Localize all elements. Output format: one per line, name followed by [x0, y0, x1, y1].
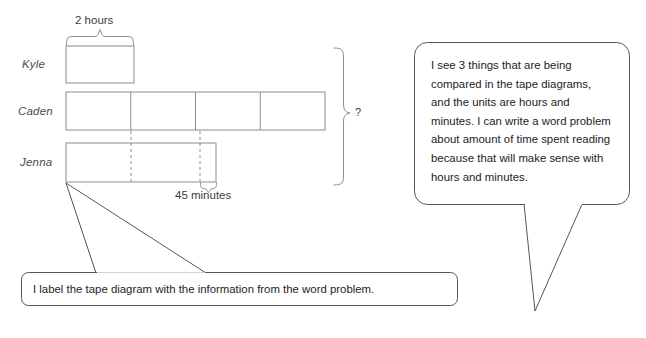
right-bubble-text: I see 3 things that are being compared i…	[431, 56, 613, 186]
tape-diagram-worksheet: Kyle Caden Jenna 2 hours 45 minutes ? I …	[0, 0, 646, 338]
two-hours-brace	[67, 30, 134, 46]
row-label-caden: Caden	[18, 105, 53, 117]
right-bubble-tail	[524, 202, 583, 311]
measure-label-forty-five-minutes: 45 minutes	[175, 189, 231, 201]
measure-label-two-hours: 2 hours	[75, 14, 113, 26]
kyle-tape-bar	[66, 46, 134, 83]
measure-label-unknown-total: ?	[355, 106, 361, 118]
bottom-bubble-text: I label the tape diagram with the inform…	[33, 281, 443, 297]
jenna-tape-bar	[66, 143, 216, 182]
total-unknown-brace	[334, 48, 350, 185]
row-label-kyle: Kyle	[22, 58, 45, 70]
row-label-jenna: Jenna	[20, 156, 52, 168]
